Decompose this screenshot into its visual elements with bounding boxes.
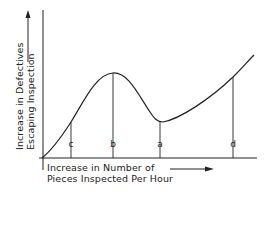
x-axis-label: Increase in Number of Pieces Inspected P…: [47, 162, 173, 184]
x-label-arrow-icon: [170, 167, 214, 172]
marker-label-b: b: [110, 139, 116, 149]
marker-label-d: d: [230, 139, 236, 149]
marker-label-c: c: [69, 139, 74, 149]
y-axis-label-line-1: Increase in Defectives: [14, 43, 25, 150]
y-axis-label-line-2: Escaping Inspection: [25, 43, 36, 150]
marker-label-a: a: [157, 139, 163, 149]
x-axis-label-line-1: Increase in Number of: [47, 162, 173, 173]
x-axis-label-line-2: Pieces Inspected Per Hour: [47, 173, 173, 184]
defectives-curve: [42, 55, 254, 158]
